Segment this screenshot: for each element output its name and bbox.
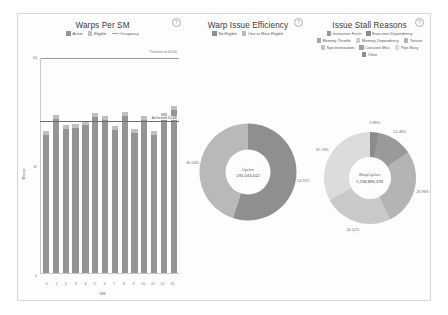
legend-swatch-icon [356, 38, 360, 42]
donut-center: WarpCycles 1,258,896,478 [349, 157, 391, 199]
bar-segment-active [92, 117, 98, 273]
x-tick: 3 [75, 282, 77, 286]
warp-issue-efficiency-chart: Cycles 191,044,612 54.91%45.04% [187, 44, 309, 300]
bar-segment-active [161, 120, 167, 273]
slice-percent-label: 24.12% [346, 228, 359, 232]
slice-percent-label: 26.96% [416, 190, 429, 194]
x-axis-label: SM [18, 291, 187, 296]
bar-segment-active [102, 120, 108, 273]
x-tick: 8 [123, 282, 125, 286]
theoretical-occupancy-label: Theoretical 64.00 [149, 50, 177, 54]
donut-center-title: Cycles [242, 166, 254, 171]
legend-label: Synchronization [327, 45, 355, 50]
profiler-dashboard: Warps Per SM ? ActiveEligibleOccupancy W… [17, 13, 431, 301]
bar-column[interactable] [92, 58, 98, 273]
legend-swatch-icon [404, 38, 408, 42]
legend-item-isr-3[interactable]: Memory Dependency [356, 38, 399, 43]
achieved-occupancy-line [40, 121, 179, 122]
legend-swatch-icon [66, 31, 70, 35]
legend-label: Memory Throttle [323, 38, 351, 43]
legend-swatch-icon [317, 38, 321, 42]
legend-label: Memory Dependency [362, 38, 399, 43]
slice-percent-label: 32.74% [316, 148, 329, 152]
bar-column[interactable] [82, 58, 88, 273]
help-icon[interactable]: ? [172, 18, 181, 27]
bar-column[interactable] [131, 58, 137, 273]
legend-swatch-icon [359, 45, 363, 49]
bar-segment-active [131, 133, 137, 273]
bar-segment-active [122, 116, 128, 273]
bar-column[interactable] [151, 58, 157, 273]
x-tick: 10 [141, 282, 145, 286]
x-tick: 12 [161, 282, 165, 286]
legend-label: Texture [410, 38, 423, 43]
panel-warp-issue-efficiency: Warp Issue Efficiency ? No EligibleOne o… [187, 14, 309, 300]
bar-segment-active [63, 129, 69, 273]
bar-column[interactable] [102, 58, 108, 273]
issue-stall-reasons-legend: Instruction FetchExecution DependencyMem… [309, 31, 430, 57]
bar-segment-active [171, 110, 177, 273]
warp-issue-efficiency-title: Warp Issue Efficiency [208, 18, 288, 34]
bar-column[interactable] [63, 58, 69, 273]
bar-segment-active [53, 119, 59, 273]
slice-percent-label: 54.91% [297, 179, 310, 183]
bar-column[interactable] [161, 58, 167, 273]
issue-stall-reasons-chart: WarpCycles 1,258,896,478 2.98%12.46%26.9… [309, 56, 430, 300]
panel-issue-stall-reasons: Issue Stall Reasons ? Instruction FetchE… [309, 14, 430, 300]
legend-swatch-icon [395, 45, 399, 49]
warps-per-sm-header: Warps Per SM ? [18, 14, 187, 30]
donut-center-value: 1,258,896,478 [356, 179, 383, 184]
achieved-occupancy-label: Achieved 45.49 [151, 116, 177, 120]
y-axis-label: Warps [22, 169, 26, 180]
legend-label: Pipe Busy [401, 45, 419, 50]
bar-segment-active [112, 130, 118, 273]
bar-segment-active [141, 120, 147, 273]
slice-percent-label: 45.04% [186, 161, 199, 165]
legend-label: Constant Miss [365, 45, 390, 50]
warps-per-sm-title: Warps Per SM [75, 18, 129, 34]
legend-item-isr-5[interactable]: Synchronization [321, 45, 355, 50]
panel-warps-per-sm: Warps Per SM ? ActiveEligibleOccupancy W… [18, 14, 187, 300]
bar-column[interactable] [53, 58, 59, 273]
x-tick: 1 [55, 282, 57, 286]
bar-column[interactable] [122, 58, 128, 273]
x-tick: 9 [133, 282, 135, 286]
issue-stall-reasons-header: Issue Stall Reasons ? [309, 14, 430, 30]
legend-item-isr-4[interactable]: Texture [404, 38, 423, 43]
bar-segment-active [151, 135, 157, 273]
bar-segment-active [72, 128, 78, 273]
y-tick: 64 [25, 56, 37, 60]
x-tick: 4 [84, 282, 86, 286]
bar-column[interactable] [171, 58, 177, 273]
warp-issue-efficiency-header: Warp Issue Efficiency ? [187, 14, 309, 30]
y-tick: 0 [25, 274, 37, 278]
legend-item-isr-6[interactable]: Constant Miss [359, 45, 390, 50]
bar-column[interactable] [112, 58, 118, 273]
bar-column[interactable] [43, 58, 49, 273]
bars-plot [40, 58, 179, 274]
donut-center-value: 191,044,612 [236, 173, 259, 178]
bar-column[interactable] [72, 58, 78, 273]
bar-column[interactable] [141, 58, 147, 273]
help-icon[interactable]: ? [415, 18, 424, 27]
x-tick: 7 [113, 282, 115, 286]
donut-center-title: WarpCycles [359, 172, 380, 177]
help-icon[interactable]: ? [294, 18, 303, 27]
x-tick: 11 [151, 282, 155, 286]
x-tick: 13 [170, 282, 174, 286]
x-tick: 2 [65, 282, 67, 286]
issue-stall-reasons-title: Issue Stall Reasons [332, 18, 406, 34]
y-tick: 32 [25, 165, 37, 169]
warps-per-sm-plot-area: Warps 64 32 0 Theoretical 64.00 Achieved… [18, 48, 187, 300]
x-tick: 0 [46, 282, 48, 286]
legend-swatch-icon [321, 45, 325, 49]
donut-center: Cycles 191,044,612 [226, 150, 271, 195]
panel-row: Warps Per SM ? ActiveEligibleOccupancy W… [18, 14, 430, 300]
slice-percent-label: 2.98% [369, 121, 380, 125]
legend-item-isr-2[interactable]: Memory Throttle [317, 38, 351, 43]
slice-percent-label: 12.46% [393, 130, 406, 134]
x-tick: 6 [104, 282, 106, 286]
legend-item-isr-7[interactable]: Pipe Busy [395, 45, 419, 50]
bar-segment-active [43, 135, 49, 273]
x-tick: 5 [94, 282, 96, 286]
